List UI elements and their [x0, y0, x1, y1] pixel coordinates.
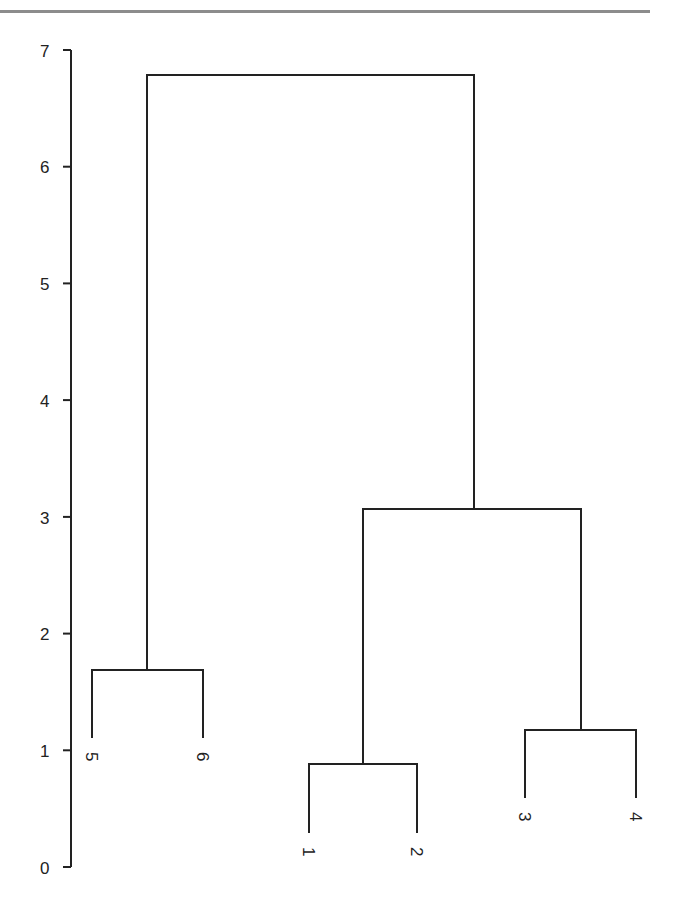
branch-5-6	[92, 670, 203, 738]
dendrogram-branches	[92, 75, 636, 833]
branch-root	[147, 75, 474, 670]
y-tick-label: 6	[40, 158, 49, 177]
y-tick-labels: 7 6 5 4 3 2 1 0	[40, 42, 49, 878]
branch-3-4	[525, 730, 636, 798]
leaf-label: 6	[193, 752, 212, 761]
y-tick-label: 5	[40, 275, 49, 294]
branch-1-2	[309, 764, 417, 833]
dendrogram-chart: 7 6 5 4 3 2 1 0 5 6 1 2 3 4	[0, 0, 673, 911]
y-tick-label: 3	[40, 509, 49, 528]
y-tick-label: 2	[40, 625, 49, 644]
leaf-label: 5	[82, 752, 101, 761]
leaf-label: 3	[515, 812, 534, 821]
branch-12-34	[363, 509, 581, 764]
y-tick-label: 1	[40, 742, 49, 761]
leaf-label: 4	[626, 812, 645, 821]
y-tick-label: 0	[40, 859, 49, 878]
leaf-label: 1	[299, 847, 318, 856]
y-axis	[63, 50, 71, 867]
y-tick-label: 7	[40, 42, 49, 61]
y-tick-label: 4	[40, 392, 49, 411]
leaf-label: 2	[407, 847, 426, 856]
leaf-labels: 5 6 1 2 3 4	[82, 752, 645, 856]
